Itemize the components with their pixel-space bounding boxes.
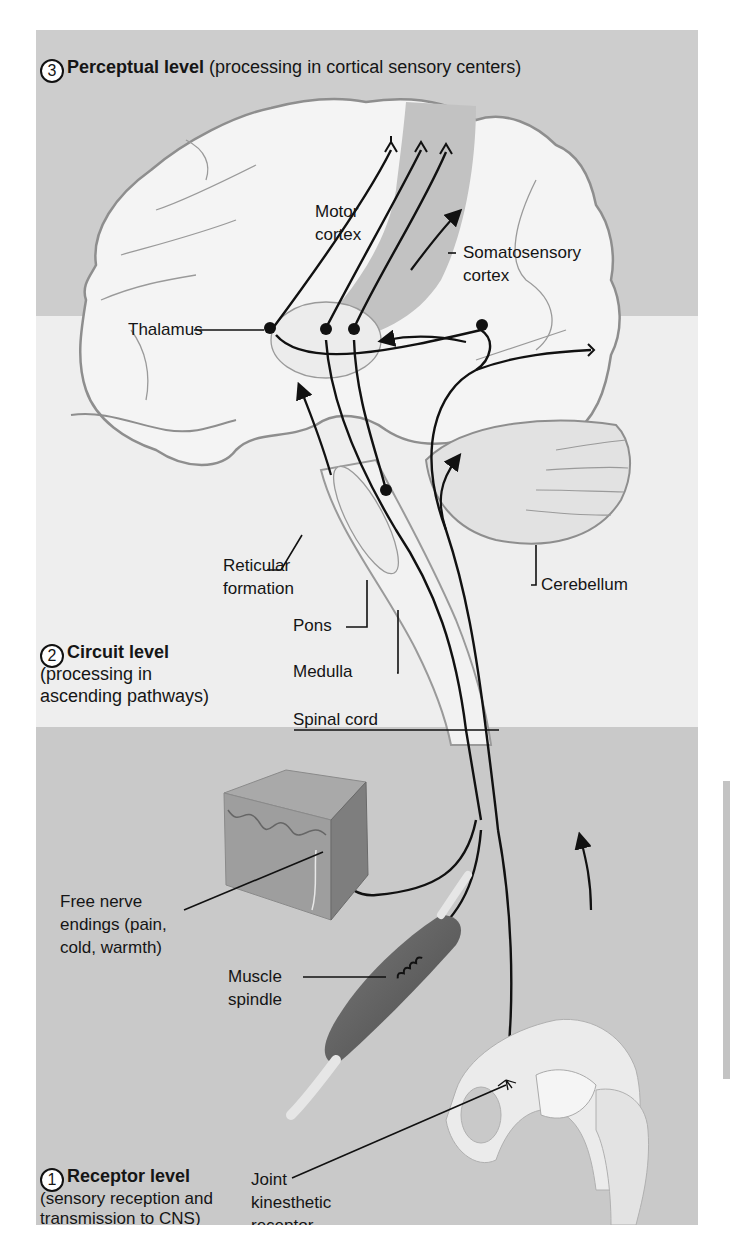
page-edge-strip	[723, 781, 730, 1079]
brain-cerebrum	[71, 99, 620, 465]
label-free-nerve-endings-1: Free nerve	[60, 892, 142, 912]
receptor-level-desc-1: (sensory reception and	[40, 1188, 213, 1209]
label-joint-receptor-3: receptor	[251, 1216, 313, 1225]
circuit-level-desc-2: ascending pathways)	[40, 686, 209, 707]
receptor-level-desc-2: transmission to CNS)	[40, 1208, 201, 1225]
label-medulla: Medulla	[293, 662, 353, 682]
label-joint-receptor-2: kinesthetic	[251, 1193, 331, 1213]
label-reticular-formation-2: formation	[223, 579, 294, 599]
label-somatosensory-cortex-1: Somatosensory	[463, 243, 581, 263]
label-motor-cortex-1: Motor	[315, 202, 358, 222]
level-title: Circuit level	[67, 642, 169, 662]
cerebellum-shape	[426, 421, 630, 544]
label-pons: Pons	[293, 616, 332, 636]
figure-panel: 3Perceptual level (processing in cortica…	[36, 30, 698, 1225]
label-somatosensory-cortex-2: cortex	[463, 266, 509, 286]
hip-joint	[446, 1019, 649, 1225]
level-title: Perceptual level	[67, 57, 204, 77]
circuit-level-desc-1: (processing in	[40, 664, 152, 685]
perceptual-level-heading: 3Perceptual level (processing in cortica…	[40, 57, 521, 83]
label-spinal-cord: Spinal cord	[293, 710, 378, 730]
label-free-nerve-endings-2: endings (pain,	[60, 915, 167, 935]
level-title: Receptor level	[67, 1166, 190, 1186]
label-reticular-formation-1: Reticular	[223, 556, 290, 576]
label-thalamus: Thalamus	[128, 320, 203, 340]
label-muscle-spindle-2: spindle	[228, 990, 282, 1010]
label-muscle-spindle-1: Muscle	[228, 967, 282, 987]
label-joint-receptor-1: Joint	[251, 1170, 287, 1190]
label-free-nerve-endings-3: cold, warmth)	[60, 938, 162, 958]
label-cerebellum: Cerebellum	[541, 575, 628, 595]
level-number-badge: 3	[40, 59, 64, 83]
diagram-artwork	[36, 30, 698, 1225]
label-motor-cortex-2: cortex	[315, 225, 361, 245]
skin-block	[224, 770, 368, 920]
level-description: (processing in cortical sensory centers)	[209, 57, 521, 77]
